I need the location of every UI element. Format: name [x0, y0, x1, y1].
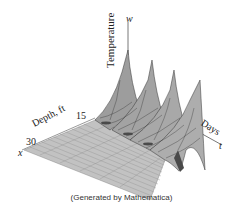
depth-tick-15: 15 — [76, 110, 86, 121]
temperature-axis-label: Temperature — [104, 13, 116, 68]
surface-plot — [0, 0, 243, 213]
caption: (Generated by Mathematica) — [0, 193, 243, 202]
x-axis-symbol: x — [18, 147, 22, 158]
t-axis-symbol: t — [219, 140, 222, 151]
w-axis-label: w — [126, 13, 133, 24]
depth-tick-30: 30 — [26, 136, 36, 147]
